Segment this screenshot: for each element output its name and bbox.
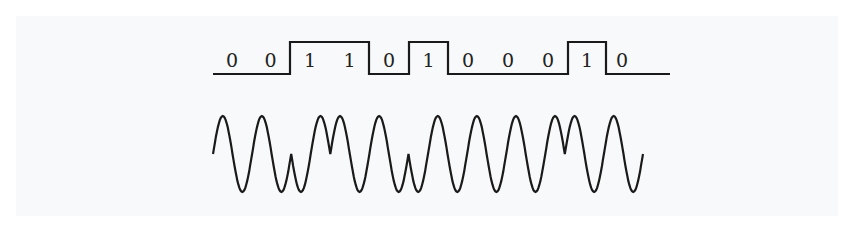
psk-diagram: 00110100010	[0, 0, 853, 228]
bit-label: 0	[383, 49, 395, 71]
digital-signal-waveform	[213, 42, 670, 74]
bit-label: 0	[616, 49, 628, 71]
bit-label: 0	[502, 49, 514, 71]
bit-label: 1	[422, 49, 434, 71]
bit-label: 0	[226, 49, 238, 71]
modulated-carrier-waveform	[213, 116, 643, 192]
bit-label: 1	[304, 49, 316, 71]
bit-label: 0	[462, 49, 474, 71]
bit-label: 1	[343, 49, 355, 71]
bit-label: 0	[264, 49, 276, 71]
bit-label: 1	[581, 49, 593, 71]
bit-label: 0	[542, 49, 554, 71]
